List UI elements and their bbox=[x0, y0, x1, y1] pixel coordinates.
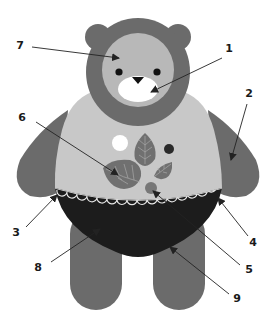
callout-arrow bbox=[218, 198, 248, 236]
bear-diagram: 123456789 bbox=[0, 0, 276, 317]
white-dot bbox=[112, 135, 128, 151]
left-eye bbox=[115, 68, 122, 75]
callout-arrow bbox=[26, 195, 57, 227]
callout-4: 4 bbox=[218, 198, 257, 249]
callout-number: 2 bbox=[245, 87, 253, 100]
head bbox=[85, 18, 191, 126]
callout-number: 7 bbox=[16, 39, 24, 52]
callout-number: 5 bbox=[245, 263, 253, 276]
right-eye bbox=[153, 68, 160, 75]
black-dot bbox=[164, 144, 174, 154]
callout-number: 9 bbox=[233, 292, 241, 305]
grey-dot bbox=[145, 182, 157, 194]
callout-number: 8 bbox=[34, 261, 42, 274]
callout-3: 3 bbox=[12, 195, 57, 239]
callout-number: 1 bbox=[225, 42, 233, 55]
callout-number: 6 bbox=[18, 111, 26, 124]
callout-number: 3 bbox=[12, 226, 20, 239]
callout-number: 4 bbox=[249, 236, 257, 249]
